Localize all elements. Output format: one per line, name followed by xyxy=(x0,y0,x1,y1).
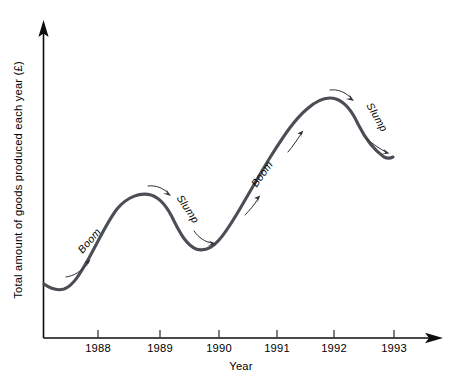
x-tick-1989: 1989 xyxy=(147,330,173,354)
x-tick-label: 1990 xyxy=(206,342,232,354)
x-tick-1990: 1990 xyxy=(206,330,232,354)
x-tick-1993: 1993 xyxy=(381,330,407,354)
annotation-boom-1: Boom xyxy=(66,226,103,277)
x-tick-1991: 1991 xyxy=(264,330,290,354)
x-axis-ticks: 1988 1989 1990 1991 1992 1993 xyxy=(85,330,407,354)
annotation-label: Slump xyxy=(175,192,203,225)
annotation-label: Slump xyxy=(364,100,390,133)
annotation-arrow-line xyxy=(148,186,168,193)
x-tick-1992: 1992 xyxy=(321,330,347,354)
axes-group xyxy=(38,20,443,343)
x-tick-label: 1991 xyxy=(264,342,290,354)
annotation-boom-2: Boom xyxy=(245,131,303,216)
x-tick-label: 1989 xyxy=(147,342,173,354)
annotation-arrow-line xyxy=(245,199,258,215)
x-axis-title: Year xyxy=(229,360,252,372)
y-axis-title: Total amount of goods produced each year… xyxy=(12,61,24,299)
x-tick-label: 1992 xyxy=(321,342,347,354)
annotation-label: Boom xyxy=(248,158,275,188)
x-tick-1988: 1988 xyxy=(85,330,111,354)
annotation-arrow-line-2 xyxy=(288,134,301,152)
x-tick-label: 1993 xyxy=(381,342,407,354)
business-cycle-curve xyxy=(44,98,393,290)
chart-canvas: 1988 1989 1990 1991 1992 1993 xyxy=(0,0,465,380)
x-tick-label: 1988 xyxy=(85,342,111,354)
business-cycle-chart: 1988 1989 1990 1991 1992 1993 xyxy=(0,0,465,380)
